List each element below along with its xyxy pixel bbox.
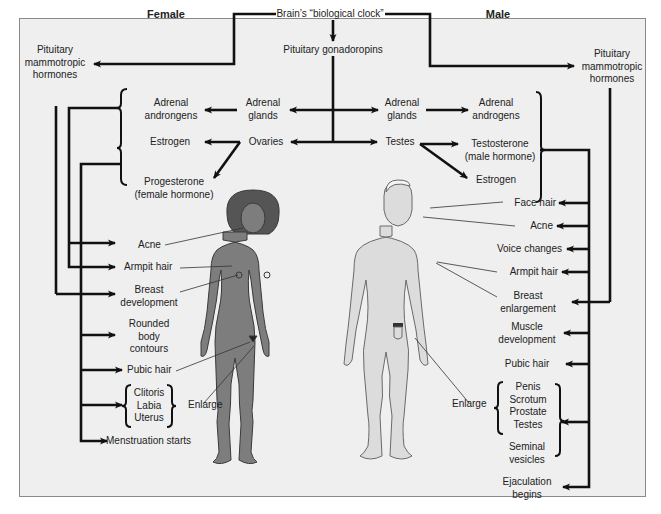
female-estrogen-label: Estrogen [150, 136, 190, 149]
ovaries-label: Ovaries [249, 136, 283, 149]
female-adrenal-androgens-label: Adrenal androngens [145, 97, 198, 122]
female-pituitary-mammotropic-label: Pituitary mammotropic hormones [25, 44, 86, 82]
female-enlarge-label: Enlarge [188, 399, 222, 412]
male-pubic-hair-label: Pubic hair [505, 358, 549, 371]
male-enlarge-label: Enlarge [452, 398, 486, 411]
puberty-hormone-diagram: Female Male Brain’s “biological clock” P… [0, 0, 661, 514]
arrow-to-left-mammotropic [94, 14, 276, 64]
female-organs-label: Clitoris Labia Uterus [134, 387, 165, 425]
male-pituitary-mammotropic-label: Pituitary mammotropic hormones [582, 48, 643, 86]
male-adrenal-glands-label: Adrenal glands [385, 97, 419, 122]
female-pubic-hair-label: Pubic hair [127, 364, 171, 377]
ejaculation-begins-label: Ejaculation begins [503, 476, 552, 501]
brain-biological-clock-label: Brain’s “biological clock” [276, 8, 383, 21]
breast-enlargement-label: Breast enlargement [500, 290, 556, 315]
arrow-to-right-mammotropic [385, 14, 574, 66]
male-organs-label: Penis Scrotum Prostate Testes [509, 381, 546, 431]
progesterone-label: Progesterone (female hormone) [135, 176, 214, 201]
face-hair-label: Face hair [514, 197, 556, 210]
male-adrenal-androgens-label: Adrenal androgens [472, 97, 519, 122]
voice-changes-label: Voice changes [497, 243, 562, 256]
male-figure-icon [344, 180, 428, 459]
male-header: Male [486, 8, 510, 21]
male-hormone-brace [536, 92, 545, 202]
female-acne-label: Acne [138, 239, 161, 252]
female-adrenal-glands-label: Adrenal glands [246, 97, 280, 122]
male-estrogen-label: Estrogen [476, 174, 516, 187]
female-figure-icon [201, 190, 279, 464]
male-armpit-hair-label: Armpit hair [510, 266, 558, 279]
rounded-body-contours-label: Rounded body contours [129, 318, 170, 356]
female-armpit-hair-label: Armpit hair [124, 261, 172, 274]
female-header: Female [147, 8, 185, 21]
diagram-connectors [0, 0, 661, 514]
pituitary-gonadotropins-label: Pituitary gonadoropins [283, 44, 383, 57]
female-hormone-brace [117, 89, 127, 185]
testosterone-label: Testosterone (male hormone) [465, 138, 536, 163]
testes-label: Testes [386, 136, 415, 149]
male-acne-label: Acne [530, 220, 553, 233]
seminal-vesicles-label: Seminal vesicles [509, 441, 545, 466]
menstruation-starts-label: Menstruation starts [106, 435, 191, 448]
breast-development-label: Breast development [120, 284, 177, 309]
muscle-development-label: Muscle development [498, 321, 555, 346]
